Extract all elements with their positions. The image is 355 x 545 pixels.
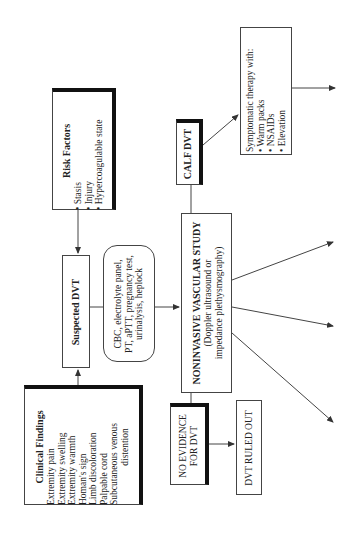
symptomatic-therapy-content: Symptomatic therapy with: • Warm packs •… (245, 30, 287, 152)
finding-item: Subcutaneous venous (109, 389, 120, 505)
symptomatic-therapy-box: Symptomatic therapy with: • Warm packs •… (240, 27, 292, 155)
no-evidence-line: FOR DVT (188, 414, 199, 478)
lab-line: CBC, electrolyte panel, (113, 255, 124, 353)
lab-tests-box: CBC, electrolyte panel, PT, aPTT, pregna… (103, 245, 155, 362)
lab-line: urinalysis, heplock (134, 255, 145, 353)
clinical-findings-content: Clinical Findings Extremity pain Extremi… (34, 389, 130, 505)
vascular-line: (Doppler ultrasound or (202, 222, 213, 385)
calf-dvt-content: CALF DVT (182, 128, 194, 178)
risk-item: • Stasis (73, 92, 84, 210)
no-evidence-box: NO EVIDENCE FOR DVT (170, 403, 209, 485)
risk-factors-title: Risk Factors (61, 92, 73, 210)
finding-item: Extremity warmth (67, 389, 78, 505)
dvt-ruled-out-box: DVT RULED OUT (236, 400, 262, 495)
finding-item: Palpable cord (99, 389, 110, 505)
lab-tests-content: CBC, electrolyte panel, PT, aPTT, pregna… (113, 255, 145, 353)
no-evidence-line: NO EVIDENCE (178, 414, 189, 478)
suspected-dvt-content: Suspected DVT (70, 278, 82, 344)
suspected-dvt-box: Suspected DVT (62, 255, 90, 368)
finding-item: Extremity swelling (57, 389, 68, 505)
vascular-study-content: NONINVASIVE VASCULAR STUDY (Doppler ultr… (190, 222, 223, 385)
therapy-item: • NSAIDs (266, 30, 277, 152)
calf-dvt-box: CALF DVT (176, 119, 203, 185)
lab-line: PT, aPTT, pregnancy test, (124, 255, 135, 353)
clinical-findings-box: Clinical Findings Extremity pain Extremi… (24, 385, 143, 505)
clinical-findings-title: Clinical Findings (34, 389, 46, 505)
dvt-ruled-out-content: DVT RULED OUT (244, 410, 255, 485)
risk-item: • Injury (83, 92, 94, 210)
vascular-line: impedance plethysmography) (213, 222, 224, 385)
dvt-ruled-out-title: DVT RULED OUT (244, 410, 255, 485)
symptomatic-title: Symptomatic therapy with: (245, 30, 256, 152)
therapy-item: • Elevation (277, 30, 288, 152)
calf-dvt-title: CALF DVT (182, 128, 194, 178)
no-evidence-content: NO EVIDENCE FOR DVT (178, 414, 199, 478)
finding-item: Limb discoloration (88, 389, 99, 505)
vascular-study-box: NONINVASIVE VASCULAR STUDY (Doppler ultr… (181, 213, 232, 393)
finding-item: Extremity pain (46, 389, 57, 505)
risk-item: • Hypercoagulable state (94, 92, 105, 210)
therapy-item: • Warm packs (256, 30, 267, 152)
suspected-dvt-title: Suspected DVT (70, 278, 82, 344)
finding-item: Homan's sign (78, 389, 89, 505)
finding-item: distention (120, 389, 131, 505)
vascular-study-title: NONINVASIVE VASCULAR STUDY (190, 222, 202, 385)
risk-factors-box: Risk Factors • Stasis • Injury • Hyperco… (52, 88, 116, 210)
risk-factors-content: Risk Factors • Stasis • Injury • Hyperco… (61, 92, 105, 210)
